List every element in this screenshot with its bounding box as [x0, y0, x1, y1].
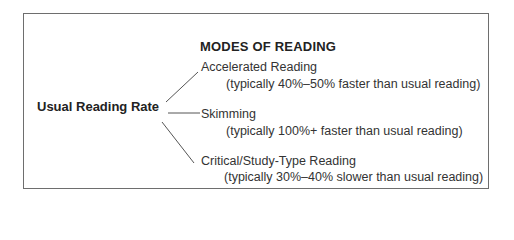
mode-accelerated: Accelerated Reading — [201, 60, 317, 74]
mode-critical-description: (typically 30%–40% slower than usual rea… — [224, 170, 483, 184]
connector-critical — [162, 122, 194, 163]
mode-skimming-description: (typically 100%+ faster than usual readi… — [226, 124, 463, 138]
connector-accelerated — [166, 72, 198, 102]
root-node: Usual Reading Rate — [37, 99, 159, 114]
mode-skimming: Skimming — [201, 107, 256, 121]
mode-accelerated-description: (typically 40%–50% faster than usual rea… — [226, 77, 480, 91]
diagram-heading: MODES OF READING — [200, 39, 336, 54]
mode-critical: Critical/Study-Type Reading — [201, 154, 356, 168]
